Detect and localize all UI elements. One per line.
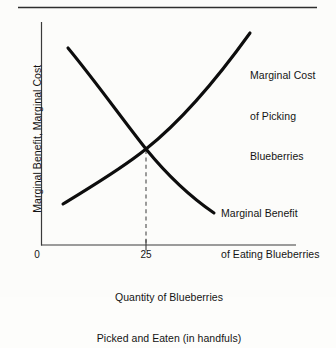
- marginal-cost-label: Marginal Cost of Picking Blueberries: [250, 42, 315, 191]
- marginal-cost-label-line3: Blueberries: [250, 150, 315, 164]
- marginal-cost-label-line2: of Picking: [250, 110, 315, 124]
- origin-label: 0: [30, 248, 44, 262]
- marginal-benefit-label-line2: of Eating Blueberries: [221, 248, 320, 262]
- x-axis-title-line1: Quantity of Blueberries: [41, 291, 297, 305]
- marginal-benefit-label-line1: Marginal Benefit: [221, 207, 320, 221]
- x-axis-title: Quantity of Blueberries Picked and Eaten…: [41, 264, 297, 348]
- marginal-cost-label-line1: Marginal Cost: [250, 69, 315, 83]
- y-axis-title: Marginal Benefit, Marginal Cost: [31, 39, 45, 239]
- marginal-cost-curve: [63, 33, 250, 204]
- x-axis-title-line2: Picked and Eaten (in handfuls): [41, 332, 297, 346]
- x-tick-label-25: 25: [120, 248, 172, 262]
